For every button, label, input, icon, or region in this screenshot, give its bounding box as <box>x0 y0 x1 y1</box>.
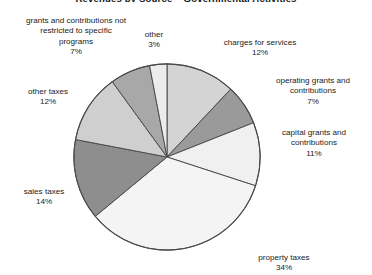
label-text: operating grants and contributions <box>276 76 350 95</box>
label-text: other <box>145 30 163 39</box>
label-capital-grants-and-contributions: capital grants and contributions 11% <box>258 118 370 169</box>
pie-svg <box>70 60 264 254</box>
pie-chart-figure: Revenues by Source – Governmental Activi… <box>0 0 372 275</box>
label-percent: 11% <box>258 149 370 159</box>
label-percent: 3% <box>124 40 184 50</box>
label-charges-for-services: charges for services 12% <box>198 28 322 69</box>
label-percent: 12% <box>198 48 322 58</box>
label-other-taxes: other taxes 12% <box>6 77 90 118</box>
label-other: other 3% <box>124 20 184 61</box>
label-text: capital grants and contributions <box>282 128 346 147</box>
pie-slice-group <box>74 64 260 250</box>
label-percent: 14% <box>4 197 84 207</box>
label-text: property taxes <box>258 253 309 262</box>
label-text: sales taxes <box>24 187 65 196</box>
label-percent: 34% <box>232 263 336 273</box>
label-operating-grants-and-contributions: operating grants and contributions 7% <box>256 66 370 117</box>
label-sales-taxes: sales taxes 14% <box>4 177 84 218</box>
label-property-taxes: property taxes 34% <box>232 243 336 275</box>
label-percent: 12% <box>6 97 90 107</box>
label-percent: 7% <box>256 97 370 107</box>
label-text: charges for services <box>224 38 296 47</box>
label-text: other taxes <box>28 87 68 96</box>
pie-chart <box>70 60 264 254</box>
label-text: grants and contributions not restricted … <box>26 16 126 45</box>
chart-title: Revenues by Source – Governmental Activi… <box>0 0 372 2</box>
